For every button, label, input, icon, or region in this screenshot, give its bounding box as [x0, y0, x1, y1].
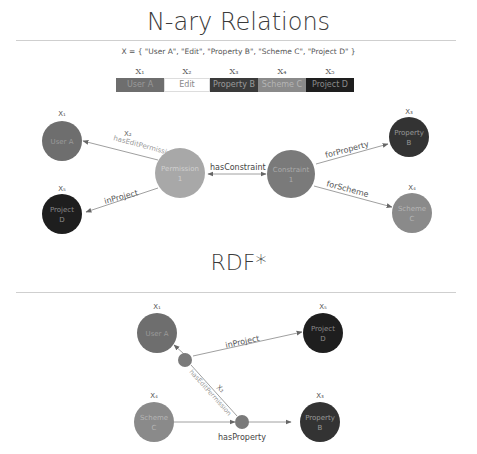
- edge-label-in-project: inProject: [103, 188, 139, 206]
- node-user-a[interactable]: User A X₁: [137, 303, 177, 353]
- edge-to-user-a: [174, 345, 184, 354]
- edge-label-for-property: forProperty: [324, 140, 370, 160]
- node-label-2: D: [59, 216, 64, 224]
- edge-label-has-property: hasProperty: [218, 433, 266, 442]
- edge-label-for-scheme: forScheme: [325, 179, 369, 199]
- node-label: User A: [146, 330, 169, 338]
- node-index: X₃: [405, 108, 413, 116]
- node-permission-1[interactable]: Permission 1: [155, 148, 205, 198]
- node-project-d[interactable]: Project D X₅: [42, 185, 82, 234]
- node-index: X₅: [319, 303, 327, 311]
- node-label: Project: [311, 325, 335, 333]
- triple-node-edit-permission[interactable]: [178, 353, 192, 367]
- node-index: X₄: [150, 392, 158, 400]
- node-property-b[interactable]: Property B X₃: [300, 392, 340, 442]
- node-constraint-1[interactable]: Constraint 1: [267, 150, 315, 198]
- node-label: Project: [50, 206, 74, 214]
- triple-node-has-property[interactable]: [235, 415, 249, 429]
- nary-graph: hasEditPermission X₂ inProject hasConstr…: [42, 108, 432, 234]
- node-index: X₃: [316, 392, 324, 400]
- node-label: Scheme: [398, 205, 426, 213]
- edge-label-in-project: inProject: [225, 334, 261, 350]
- edge-label-has-constraint: hasConstraint: [210, 163, 266, 172]
- node-index: X₅: [58, 185, 66, 193]
- node-label-2: B: [407, 139, 412, 147]
- node-scheme-c[interactable]: Scheme C X₄: [392, 184, 432, 233]
- node-label-2: 1: [289, 176, 293, 184]
- node-label-2: 1: [178, 175, 182, 183]
- graph-canvas: hasEditPermission X₂ inProject hasConstr…: [0, 0, 477, 454]
- node-user-a[interactable]: User A X₁: [42, 110, 82, 161]
- node-label: Property: [394, 129, 424, 137]
- edge-sub-x2: X₂: [124, 130, 132, 138]
- rdfstar-graph: inProject hasEditPermission X₂ hasProper…: [134, 303, 343, 442]
- node-index: X₁: [58, 110, 66, 118]
- node-scheme-c[interactable]: Scheme C X₄: [134, 392, 174, 442]
- node-property-b[interactable]: Property B X₃: [389, 108, 429, 157]
- node-label-2: C: [410, 215, 415, 223]
- node-label: Constraint: [273, 166, 310, 174]
- node-project-d[interactable]: Project D X₅: [303, 303, 343, 353]
- node-index: X₄: [408, 184, 416, 192]
- node-label-2: D: [320, 335, 325, 343]
- node-label: User A: [51, 138, 74, 146]
- node-label-2: C: [152, 424, 157, 432]
- edge-label-has-edit-permission: hasEditPermission: [188, 368, 234, 417]
- node-index: X₁: [153, 303, 161, 311]
- node-label: Scheme: [140, 414, 168, 422]
- node-label: Permission: [161, 165, 199, 173]
- node-label-2: B: [318, 424, 323, 432]
- node-label: Property: [305, 414, 335, 422]
